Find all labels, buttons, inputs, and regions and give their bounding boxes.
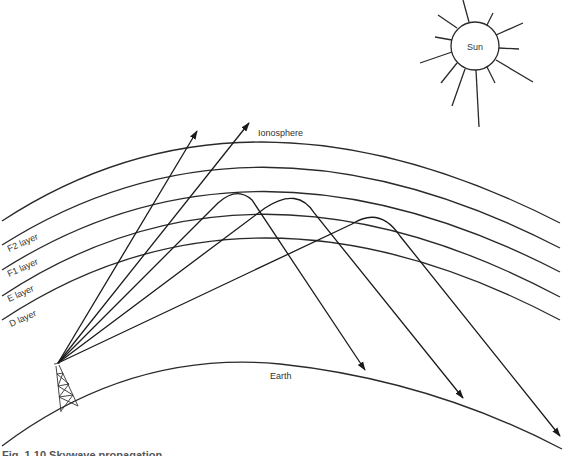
d-layer-label: D layer [8, 308, 38, 329]
sun-icon: Sun [420, 0, 533, 127]
figure-caption: Fig. 1.10 Skywave propagation [2, 449, 162, 456]
ionosphere-layers [2, 142, 560, 320]
escaping-rays [58, 123, 249, 363]
earth-label: Earth [270, 371, 292, 381]
reflected-ray-e [58, 217, 560, 436]
f2-layer-boundary [2, 167, 560, 248]
reflected-ray-f1 [58, 198, 463, 398]
f1-layer-boundary [2, 191, 560, 272]
reflected-ray-f2 [58, 194, 365, 370]
reflected-rays [58, 194, 560, 436]
sun-label: Sun [467, 42, 483, 52]
ionosphere-top-boundary [2, 142, 560, 223]
ionosphere-label: Ionosphere [258, 128, 303, 138]
e-layer-label: E layer [6, 283, 36, 304]
transmitter-tower-icon [54, 363, 78, 412]
escaping-ray-2 [58, 123, 249, 363]
ionosphere-diagram: Sun Ionosphere F2 layer F1 layer E layer… [0, 0, 564, 456]
